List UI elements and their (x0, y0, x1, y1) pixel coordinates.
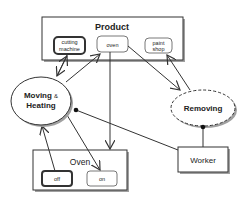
worker-label: Worker (190, 156, 216, 165)
off-label: off (54, 176, 60, 182)
agent-dot-removing (201, 125, 206, 130)
cutting-machine-label-2: machine (59, 46, 80, 52)
paint-shop-label-2: shop (153, 46, 165, 52)
state-on[interactable]: on (87, 171, 117, 186)
worker-object[interactable]: Worker (178, 147, 230, 174)
paint-shop-label-1: paint (153, 40, 165, 46)
cutting-machine-label-1: cutting (61, 39, 77, 45)
product-label: Product (95, 22, 129, 32)
state-cutting-machine[interactable]: cutting machine (54, 37, 85, 54)
opm-diagram: Product cutting machine oven paint shop … (0, 0, 250, 205)
removing-label: Removing (184, 104, 223, 113)
oven-label: Oven (70, 157, 91, 167)
process-moving-heating[interactable]: Moving & Heating (11, 77, 73, 127)
oven-state-label: oven (107, 42, 119, 48)
state-off[interactable]: off (42, 171, 72, 186)
process-removing[interactable]: Removing (171, 90, 237, 128)
link-worker-to-moving (76, 110, 178, 150)
on-label: on (99, 176, 105, 182)
state-oven[interactable]: oven (97, 36, 128, 52)
moving-heating-label-2: Heating (26, 101, 55, 110)
state-paint-shop[interactable]: paint shop (145, 38, 172, 53)
agent-dot-moving (74, 108, 79, 113)
moving-heating-label-1: Moving & (24, 91, 58, 100)
